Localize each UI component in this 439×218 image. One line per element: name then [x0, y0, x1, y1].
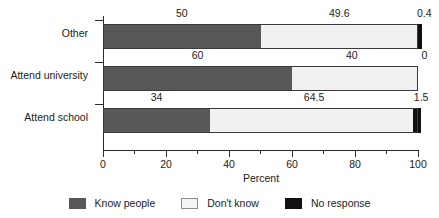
y-category-label-attend-university: Attend university [0, 69, 88, 81]
x-axis-title: Percent [103, 172, 419, 184]
bar-segment-dont-know [292, 66, 418, 91]
bar-segment-know-people [103, 108, 210, 133]
bar-segment-know-people [103, 24, 261, 49]
bar-segment-dont-know [210, 108, 413, 133]
x-axis-tick-50 [260, 151, 261, 154]
bar-segment-no-response [417, 24, 422, 49]
bar-value-label: 1.5 [414, 92, 429, 103]
y-category-label-attend-school: Attend school [0, 111, 88, 123]
stacked-bar-chart: Other Attend university Attend school [0, 0, 439, 218]
legend-item-dont-know: Don't know [181, 197, 259, 209]
legend-label: No response [311, 197, 371, 209]
x-axis-tick-70 [323, 151, 324, 154]
bar-value-label: 50 [176, 8, 188, 19]
legend-item-no-response: No response [285, 197, 371, 209]
bar-value-label: 60 [192, 50, 204, 61]
x-axis-tick-20 [166, 151, 167, 157]
y-axis-category-labels: Other Attend university Attend school [0, 0, 88, 160]
x-axis-tick-90 [386, 151, 387, 154]
legend-label: Know people [95, 197, 156, 209]
bar-segment-dont-know [261, 24, 417, 49]
x-axis-tick-label-40: 40 [223, 158, 235, 170]
bar-value-label: 0 [421, 50, 427, 61]
x-axis-tick-label-60: 60 [286, 158, 298, 170]
bar-segment-know-people [103, 66, 292, 91]
x-axis-tick-80 [355, 151, 356, 157]
x-axis-tick-label-80: 80 [349, 158, 361, 170]
x-axis-tick-0 [103, 151, 104, 157]
chart-legend: Know people Don't know No response [0, 192, 439, 214]
x-axis-tick-40 [229, 151, 230, 157]
bar-value-label: 0.4 [417, 8, 432, 19]
x-axis-tick-100 [418, 151, 419, 157]
bar-value-label: 64.5 [304, 92, 324, 103]
bar-value-label: 40 [346, 50, 358, 61]
x-axis-tick-60 [292, 151, 293, 157]
table-row [103, 66, 418, 91]
x-axis-tick-label-0: 0 [100, 158, 106, 170]
x-axis-line [103, 150, 419, 151]
x-axis-tick-label-100: 100 [409, 158, 427, 170]
plot-area: 50 49.6 0.4 60 40 0 34 64.5 1.5 [103, 20, 418, 146]
y-axis-tick-0 [95, 20, 103, 21]
bar-segment-no-response [413, 108, 421, 133]
bar-value-label: 49.6 [329, 8, 349, 19]
y-axis-tick-1 [95, 62, 103, 63]
x-axis-tick-30 [197, 151, 198, 154]
x-axis-tick-10 [134, 151, 135, 154]
legend-swatch-icon [285, 198, 302, 209]
legend-item-know-people: Know people [69, 197, 156, 209]
legend-swatch-icon [181, 198, 198, 209]
y-axis-tick-2 [95, 104, 103, 105]
table-row [103, 108, 418, 133]
legend-swatch-icon [69, 198, 86, 209]
legend-label: Don't know [207, 197, 259, 209]
x-axis-tick-label-20: 20 [160, 158, 172, 170]
bar-value-label: 34 [151, 92, 163, 103]
y-category-label-other: Other [0, 27, 88, 39]
table-row [103, 24, 418, 49]
